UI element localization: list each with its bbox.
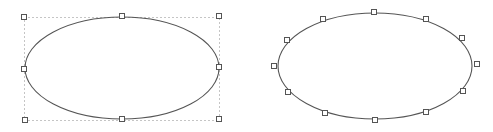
ellipse-outline[interactable] — [278, 13, 472, 119]
resize-handle[interactable] — [22, 67, 27, 72]
resize-handle[interactable] — [373, 118, 378, 123]
ellipse-point-edit[interactable] — [272, 10, 480, 123]
resize-handle[interactable] — [120, 14, 125, 19]
ellipse-outline[interactable] — [25, 17, 219, 119]
resize-handle[interactable] — [286, 90, 291, 95]
resize-handle[interactable] — [372, 10, 377, 15]
drawing-surface[interactable] — [0, 0, 493, 132]
resize-handle[interactable] — [217, 65, 222, 70]
resize-handle[interactable] — [424, 17, 429, 22]
drawing-canvas[interactable] — [0, 0, 493, 132]
resize-handle[interactable] — [120, 117, 125, 122]
resize-handle[interactable] — [460, 36, 465, 41]
resize-handle[interactable] — [321, 17, 326, 22]
resize-handle[interactable] — [285, 38, 290, 43]
resize-handle[interactable] — [424, 110, 429, 115]
resize-handle[interactable] — [217, 14, 222, 19]
resize-handle[interactable] — [461, 89, 466, 94]
resize-handle[interactable] — [323, 111, 328, 116]
selection-bounding-box — [25, 18, 220, 121]
resize-handle[interactable] — [23, 118, 28, 123]
resize-handle[interactable] — [272, 64, 277, 69]
ellipse-selected-bbox[interactable] — [22, 14, 222, 123]
resize-handle[interactable] — [217, 117, 222, 122]
resize-handle[interactable] — [22, 15, 27, 20]
resize-handle[interactable] — [475, 62, 480, 67]
